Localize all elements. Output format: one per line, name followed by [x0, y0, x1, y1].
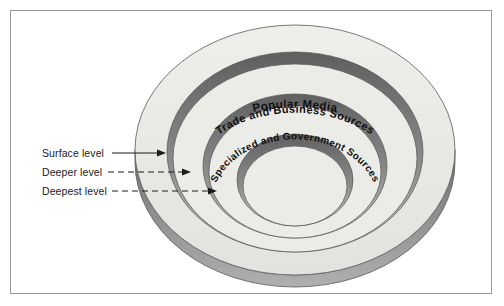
callout-label-surface-level: Surface level: [42, 147, 104, 159]
figure-canvas: Popular Media Trade and Business Sources…: [0, 0, 504, 306]
callout-label-deeper-level: Deeper level: [42, 166, 102, 178]
callout-labels: Surface level Deeper level Deepest level: [0, 0, 504, 306]
callout-label-deepest-level: Deepest level: [42, 185, 107, 197]
